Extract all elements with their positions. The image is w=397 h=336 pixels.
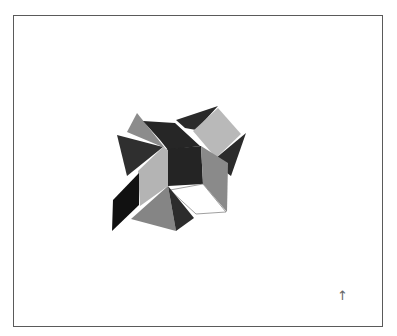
polyhedron-faces: [112, 106, 246, 231]
left-black-parallelogram: [112, 173, 139, 231]
polyhedron-render: [0, 0, 397, 336]
center-dark-square: [167, 146, 203, 186]
north-arrow-icon: ↑: [337, 289, 348, 302]
